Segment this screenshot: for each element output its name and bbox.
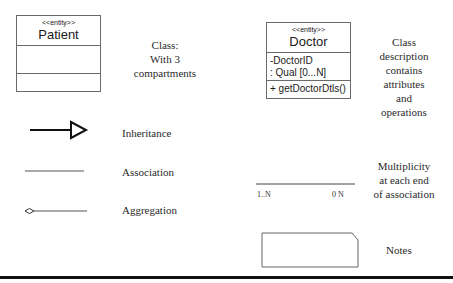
doctor-class-name: Doctor (267, 34, 350, 50)
description-line: of association (358, 187, 450, 201)
patient-operations-compartment (17, 74, 100, 91)
description-line: Class (358, 35, 450, 49)
note-folded-corner-icon (261, 232, 361, 270)
bottom-divider (0, 276, 453, 279)
description-line: attributes (358, 77, 450, 91)
association-multiplicity-line (255, 182, 357, 186)
aggregation-label: Aggregation (122, 203, 177, 217)
patient-class-name: Patient (17, 27, 100, 43)
doctor-stereotype: <<entity>> (267, 23, 350, 34)
inheritance-label: Inheritance (122, 126, 171, 140)
patient-name-compartment: <<entity>> Patient (17, 16, 100, 46)
multiplicity-left-label: 1..N (257, 190, 271, 200)
multiplicity-description: Multiplicity at each end of association (358, 159, 450, 201)
multiplicity-right-label: 0 N (332, 190, 344, 200)
description-line: at each end (358, 173, 450, 187)
doctor-name-compartment: <<entity>> Doctor (267, 23, 350, 53)
doctor-class-box: <<entity>> Doctor -DoctorID : Qual [0...… (266, 22, 351, 99)
doctor-attribute: : Qual [0...N] (267, 67, 350, 79)
doctor-attribute: -DoctorID (267, 55, 350, 67)
doctor-attributes-compartment: -DoctorID : Qual [0...N] (267, 53, 350, 81)
description-line: contains (358, 63, 450, 77)
patient-class-description: Class: With 3 compartments (122, 38, 208, 80)
description-line: operations (358, 105, 450, 119)
patient-stereotype: <<entity>> (17, 16, 100, 27)
doctor-class-description: Class description contains attributes an… (358, 35, 450, 119)
description-line: and (358, 91, 450, 105)
association-label: Association (122, 165, 174, 179)
doctor-operation: + getDoctorDtls() (267, 83, 350, 95)
patient-class-box: <<entity>> Patient (16, 15, 101, 92)
description-line: compartments (122, 66, 208, 80)
plain-line-icon (24, 166, 88, 176)
hollow-diamond-line-icon (23, 205, 91, 217)
description-line: With 3 (122, 52, 208, 66)
description-line: description (358, 49, 450, 63)
description-line: Class: (122, 38, 208, 52)
hollow-triangle-arrow-icon (28, 119, 90, 143)
doctor-operations-compartment: + getDoctorDtls() (267, 81, 350, 98)
patient-attributes-compartment (17, 46, 100, 74)
notes-label: Notes (386, 243, 412, 257)
description-line: Multiplicity (358, 159, 450, 173)
